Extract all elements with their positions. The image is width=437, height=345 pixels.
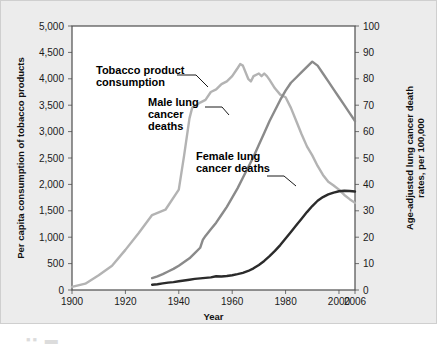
y-tick-label-right: 0	[363, 285, 369, 296]
x-axis-title: Year	[203, 311, 223, 322]
y-tick-label-right: 10	[363, 258, 375, 269]
annotation-label: consumption	[96, 76, 165, 88]
x-tick-label: 1940	[168, 296, 191, 307]
x-tick-label: 2006	[344, 296, 367, 307]
y-axis-title-right-line: Age-adjusted lung cancer death	[404, 86, 415, 230]
annotation-label: cancer deaths	[196, 162, 270, 174]
y-tick-label-right: 50	[363, 153, 375, 164]
annotation-label: cancer	[148, 108, 184, 120]
x-axis: 1900192019401960198020002006	[61, 290, 367, 307]
y-tick-label-right: 80	[363, 73, 375, 84]
y-tick-label-left: 5,000	[39, 21, 64, 32]
y-axis-right: 0102030405060708090100	[355, 21, 380, 296]
y-axis-title-right: Age-adjusted lung cancer deathrates, per…	[404, 86, 426, 230]
y-tick-label-left: 500	[47, 258, 64, 269]
y-tick-label-left: 2,500	[39, 153, 64, 164]
y-tick-label-right: 20	[363, 232, 375, 243]
y-tick-label-left: 3,000	[39, 126, 64, 137]
y-axis-title-right-line: rates, per 100,000	[415, 118, 426, 198]
annotation-label: Female lung	[196, 150, 260, 162]
y-axis-left: 05001,0001,5002,0002,5003,0003,5004,0004…	[39, 21, 72, 296]
y-tick-label-right: 40	[363, 179, 375, 190]
annotation-label: Male lung	[148, 96, 199, 108]
figure-container: ▪▪ ▬ 05001,0001,5002,0002,5003,0003,5004…	[0, 0, 437, 345]
y-tick-label-left: 3,500	[39, 100, 64, 111]
y-tick-label-left: 4,500	[39, 47, 64, 58]
y-tick-label-right: 90	[363, 47, 375, 58]
y-tick-label-left: 2,000	[39, 179, 64, 190]
x-tick-label: 1900	[61, 296, 84, 307]
x-tick-label: 1960	[221, 296, 244, 307]
y-tick-label-left: 0	[58, 285, 64, 296]
y-tick-label-right: 70	[363, 100, 375, 111]
y-tick-label-left: 1,000	[39, 232, 64, 243]
annotation-label: Tobacco product	[96, 64, 185, 76]
y-tick-label-right: 100	[363, 21, 380, 32]
annotation-label: deaths	[148, 120, 183, 132]
y-tick-label-right: 30	[363, 205, 375, 216]
y-tick-label-right: 60	[363, 126, 375, 137]
line-chart: 05001,0001,5002,0002,5003,0003,5004,0004…	[0, 0, 437, 345]
x-tick-label: 1920	[114, 296, 137, 307]
y-tick-label-left: 1,500	[39, 205, 64, 216]
x-tick-label: 1980	[274, 296, 297, 307]
y-axis-title-left: Per capita consumption of tobacco produc…	[15, 57, 26, 259]
y-tick-label-left: 4,000	[39, 73, 64, 84]
